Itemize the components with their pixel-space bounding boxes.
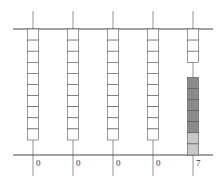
white-bead xyxy=(28,73,39,84)
counted-bead xyxy=(188,144,199,155)
white-bead xyxy=(148,85,159,96)
white-bead xyxy=(108,51,119,62)
white-bead xyxy=(188,29,199,40)
column-value: 7 xyxy=(196,158,201,168)
white-bead xyxy=(188,40,199,51)
white-bead xyxy=(28,129,39,140)
column-value: 0 xyxy=(156,158,161,168)
white-bead xyxy=(188,51,199,62)
white-bead xyxy=(148,96,159,107)
counted-bead xyxy=(188,133,199,144)
white-bead xyxy=(28,51,39,62)
white-bead xyxy=(28,62,39,73)
white-bead xyxy=(28,118,39,129)
counted-bead xyxy=(188,100,199,111)
white-bead xyxy=(68,96,79,107)
white-bead xyxy=(108,85,119,96)
white-bead xyxy=(148,51,159,62)
abacus-diagram xyxy=(0,0,222,179)
white-bead xyxy=(148,29,159,40)
white-bead xyxy=(108,29,119,40)
white-bead xyxy=(28,107,39,118)
white-bead xyxy=(68,73,79,84)
white-bead xyxy=(68,118,79,129)
white-bead xyxy=(68,29,79,40)
white-bead xyxy=(148,129,159,140)
white-bead xyxy=(68,40,79,51)
white-bead xyxy=(28,40,39,51)
white-bead xyxy=(108,118,119,129)
column-value: 0 xyxy=(116,158,121,168)
counted-bead xyxy=(188,122,199,133)
column-value: 0 xyxy=(76,158,81,168)
white-bead xyxy=(108,107,119,118)
white-bead xyxy=(108,40,119,51)
counted-bead xyxy=(188,88,199,99)
counted-bead xyxy=(188,111,199,122)
white-bead xyxy=(148,62,159,73)
white-bead xyxy=(108,73,119,84)
white-bead xyxy=(148,73,159,84)
white-bead xyxy=(148,107,159,118)
white-bead xyxy=(148,118,159,129)
white-bead xyxy=(68,129,79,140)
white-bead xyxy=(68,51,79,62)
white-bead xyxy=(28,85,39,96)
white-bead xyxy=(108,96,119,107)
white-bead xyxy=(68,107,79,118)
white-bead xyxy=(108,62,119,73)
white-bead xyxy=(68,85,79,96)
white-bead xyxy=(28,29,39,40)
counted-bead xyxy=(188,77,199,88)
white-bead xyxy=(148,40,159,51)
white-bead xyxy=(28,96,39,107)
white-bead xyxy=(68,62,79,73)
column-value: 0 xyxy=(36,158,41,168)
white-bead xyxy=(108,129,119,140)
